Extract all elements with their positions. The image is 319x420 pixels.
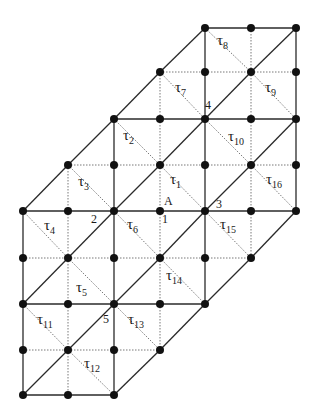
triangle-label-tau-8: τ8	[217, 33, 228, 51]
lattice-node	[64, 254, 72, 262]
lattice-node	[292, 207, 300, 215]
lattice-node	[64, 207, 72, 215]
lattice-node	[201, 254, 209, 262]
lattice-node	[156, 346, 164, 354]
lattice-node	[110, 254, 118, 262]
solid-diagonal-edge	[251, 211, 296, 258]
triangle-label-tau-13: τ13	[128, 312, 144, 330]
triangle-label-tau-4: τ4	[44, 218, 55, 236]
lattice-node	[292, 24, 300, 32]
point-label-5: 5	[103, 313, 109, 325]
triangle-label-tau-5: τ5	[76, 280, 87, 298]
lattice-node	[292, 115, 300, 123]
solid-diagonal-edge	[114, 72, 160, 119]
tau-index: 1	[176, 179, 181, 190]
lattice-node	[64, 300, 72, 308]
lattice-node	[156, 254, 164, 262]
solid-diagonal-edge	[23, 165, 68, 211]
solid-diagonal-edge	[205, 165, 251, 211]
tau-index: 12	[90, 363, 100, 374]
point-label-3: 3	[216, 198, 222, 210]
lattice-node	[110, 161, 118, 169]
lattice-node	[201, 161, 209, 169]
lattice-node	[247, 254, 255, 262]
lattice-diagram: τ1τ2τ3τ4τ5τ6τ7τ8τ9τ10τ11τ12τ13τ14τ15τ16 …	[0, 0, 319, 420]
lattice-node	[201, 300, 209, 308]
solid-diagonal-edge	[114, 165, 160, 211]
lattice-node	[19, 391, 27, 399]
lattice-node	[110, 207, 118, 215]
lattice-node	[64, 346, 72, 354]
triangle-label-tau-2: τ2	[123, 128, 134, 146]
lattice-node	[247, 68, 255, 76]
lattice-node	[247, 115, 255, 123]
solid-diagonal-edge	[68, 119, 114, 165]
lattice-node	[19, 300, 27, 308]
solid-diagonal-edge	[23, 350, 68, 395]
point-label-1: 1	[162, 213, 168, 225]
triangle-label-tau-12: τ12	[84, 356, 100, 374]
dotted-antidiagonal-edge	[68, 258, 114, 304]
triangle-label-tau-6: τ6	[127, 217, 138, 235]
tau-index: 6	[133, 224, 138, 235]
lattice-node	[110, 346, 118, 354]
point-label-2: 2	[91, 213, 97, 225]
tau-index: 10	[234, 136, 244, 147]
lattice-node	[247, 161, 255, 169]
lattice-node	[64, 391, 72, 399]
triangle-label-tau-1: τ1	[170, 172, 181, 190]
lattice-node	[247, 207, 255, 215]
lattice-node	[201, 115, 209, 123]
dotted-antidiagonal-edge	[68, 165, 114, 211]
tau-index: 5	[82, 287, 87, 298]
tau-index: 15	[226, 224, 236, 235]
dotted-antidiagonal-edge	[114, 119, 160, 165]
lattice-node	[19, 346, 27, 354]
lattice-node	[156, 115, 164, 123]
tau-index: 7	[181, 87, 186, 98]
tau-index: 14	[172, 275, 182, 286]
solid-diagonal-edge	[160, 28, 205, 72]
triangle-label-tau-14: τ14	[166, 268, 182, 286]
lattice-node	[247, 24, 255, 32]
triangle-label-tau-15: τ15	[220, 217, 236, 235]
solid-diagonal-edge	[205, 258, 251, 304]
solid-diagonal-edge	[160, 119, 205, 165]
solid-diagonal-edge	[114, 350, 160, 395]
tau-index: 13	[134, 319, 144, 330]
lattice-node	[19, 254, 27, 262]
tau-index: 2	[129, 135, 134, 146]
tau-index: 16	[272, 179, 282, 190]
lattice-node	[19, 207, 27, 215]
point-label-A: A	[164, 195, 173, 207]
lattice-svg	[0, 0, 319, 420]
tau-index: 9	[271, 87, 276, 98]
tau-index: 4	[50, 225, 55, 236]
triangle-label-tau-7: τ7	[175, 80, 186, 98]
lattice-node	[110, 391, 118, 399]
lattice-node	[201, 207, 209, 215]
lattice-node	[110, 115, 118, 123]
lattice-node	[201, 24, 209, 32]
tau-index: 8	[223, 40, 228, 51]
solid-diagonal-edge	[23, 258, 68, 304]
triangle-label-tau-3: τ3	[78, 174, 89, 192]
lattice-node	[292, 161, 300, 169]
solid-diagonal-edge	[114, 258, 160, 304]
triangle-label-tau-11: τ11	[37, 312, 53, 330]
lattice-node	[292, 68, 300, 76]
solid-diagonal-edge	[205, 72, 251, 119]
lattice-node	[156, 300, 164, 308]
lattice-node	[64, 161, 72, 169]
solid-diagonal-edge	[251, 119, 296, 165]
solid-diagonal-edge	[68, 304, 114, 350]
solid-diagonal-edge	[251, 28, 296, 72]
solid-diagonal-edge	[160, 304, 205, 350]
tau-index: 3	[84, 181, 89, 192]
lattice-node	[201, 68, 209, 76]
triangle-label-tau-9: τ9	[265, 80, 276, 98]
lattice-node	[110, 300, 118, 308]
tau-index: 11	[43, 319, 53, 330]
triangle-label-tau-16: τ16	[266, 172, 282, 190]
triangle-label-tau-10: τ10	[228, 129, 244, 147]
